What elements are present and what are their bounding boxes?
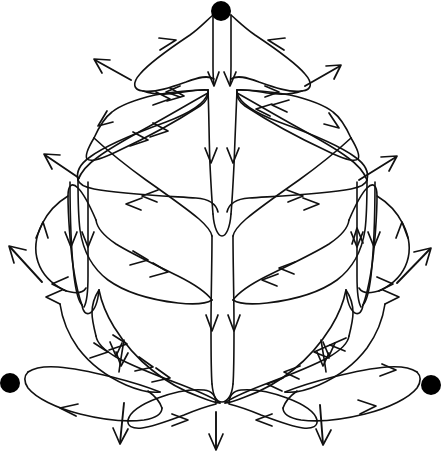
left-diamond-lower-inner [96, 220, 212, 300]
bottom-center-right-lobe [229, 390, 317, 428]
right-diamond-lower-inner [233, 220, 349, 300]
left-outer-tri-edge-b [64, 288, 86, 292]
upper-right-petal-group [237, 90, 368, 180]
arrowhead-center-left-spine-down [205, 148, 217, 163]
center-spine-u-turn [213, 214, 231, 236]
top-vertex-dot [211, 1, 231, 21]
left-diamond-top [94, 138, 212, 236]
arrowhead-center-left-lower-down [206, 315, 218, 331]
lower-right-corner-edge-b [285, 367, 417, 392]
center-right-spine-lower [233, 236, 234, 384]
lower-left-corner-edge-a [60, 304, 160, 392]
left-side-vertical-group [65, 182, 99, 314]
free-arrow-right-mid [397, 248, 431, 283]
left-diamond-upper-inner [78, 180, 218, 212]
arrowhead-lower-left-corner-ne1 [90, 343, 108, 358]
top-left-inner-spine [213, 15, 214, 84]
lower-left-corner-edge-c [25, 372, 162, 421]
lower-right-corner-edge-a [285, 304, 385, 392]
upper-right-petal-return [237, 93, 368, 180]
train-track-diagram [0, 0, 442, 453]
bottom-left-vertex-dot [0, 373, 20, 393]
right-side-vertical-group [346, 182, 380, 314]
central-upper-spines [205, 90, 239, 236]
free-arrow-bottom-left [113, 403, 128, 444]
free-arrow-upper-right [305, 65, 341, 86]
upper-right-petal-top-edge [237, 90, 351, 138]
arrowhead-lower-left-corner-w [60, 404, 78, 416]
bottom-center-left-lobe [128, 390, 216, 428]
free-arrow-bottom-right-head [316, 429, 331, 445]
arrowhead-right-diamond-lower-w1 [279, 262, 295, 274]
center-left-spine-lower [211, 236, 212, 384]
upper-right-petal-lower-edge [237, 90, 359, 160]
lower-right-corner-edge-c [283, 372, 420, 421]
free-arrow-bottom-right [316, 405, 331, 445]
center-right-spine-upper [231, 90, 237, 214]
right-diamond-top [233, 138, 351, 236]
central-lower-spines [206, 236, 240, 402]
free-arrow-left-mid-shaft [10, 247, 42, 282]
bottom-central-lobes-group [128, 390, 317, 428]
right-diamond-group [227, 138, 367, 304]
arrowhead-bottom-right-petal-nw1 [284, 366, 300, 379]
left-outer-tri-edge-a [36, 196, 68, 290]
arrowhead-right-diamond-lower-w2 [262, 274, 278, 286]
right-outer-tri-edge-b [359, 288, 381, 292]
free-arrow-left-mid [9, 246, 42, 282]
arrowhead-right-outer-tri-ne2 [383, 290, 399, 304]
free-arrow-bottom-mid [209, 412, 223, 450]
right-diamond-upper-inner [227, 180, 367, 212]
arrowhead-left-outer-tri-sw2 [46, 290, 62, 304]
arrowhead-top-left-lobe-up [159, 38, 176, 50]
top-right-inner-spine [230, 15, 231, 84]
arrowhead-left-outer-tri-up [36, 222, 48, 238]
connector-stubs-group [110, 340, 335, 372]
arrowhead-left-diamond-lower-ne2 [150, 263, 168, 277]
arrowhead-center-right-spine-down [227, 148, 239, 163]
bottom-right-vertex-dot [421, 375, 441, 395]
right-diamond-lower-edge [233, 180, 367, 304]
upper-left-petal-group [78, 88, 209, 180]
free-arrow-left-upper [44, 154, 79, 178]
figure-root [0, 0, 442, 453]
arrowhead-upper-right-petal-w1 [272, 100, 289, 112]
center-left-spine-upper [208, 90, 213, 214]
free-arrow-upper-left [94, 59, 131, 80]
upper-right-long-branch [237, 93, 367, 180]
upper-left-petal-top-edge [94, 90, 208, 138]
upper-left-petal-lower-edge [86, 90, 208, 160]
arrowhead-left-diamond-inner-w2 [126, 198, 142, 210]
top-right-lobe-outer [231, 15, 310, 91]
arrowhead-top-right-lobe-up [268, 38, 285, 50]
left-diamond-lower-edge [78, 180, 212, 304]
top-left-lobe-outer [135, 15, 214, 91]
arrowhead-right-diamond-inner-e2 [303, 198, 319, 210]
arrowhead-lower-right-corner-ne [380, 364, 396, 376]
left-diamond-group [78, 138, 218, 304]
free-arrow-right-mid-shaft [397, 249, 430, 283]
top-lobe-group [135, 15, 311, 97]
